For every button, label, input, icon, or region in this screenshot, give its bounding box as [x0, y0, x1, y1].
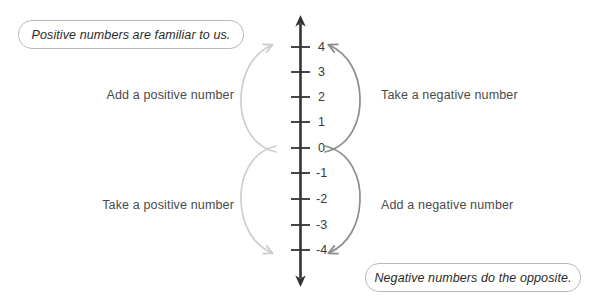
- arrow-add-positive: [241, 45, 276, 152]
- callout-positive-numbers: Positive numbers are familiar to us.: [18, 20, 244, 49]
- tick-label-neg-3: -3: [316, 218, 327, 232]
- arrow-take-positive: [241, 146, 276, 253]
- diagram-canvas: 4 3 2 1 0 -1 -2 -3 -4 Add a positive num…: [0, 0, 599, 307]
- tick-label-0: 0: [318, 141, 325, 155]
- callout-negative-numbers: Negative numbers do the opposite.: [365, 263, 581, 292]
- label-add-positive-number: Add a positive number: [86, 88, 234, 102]
- label-take-negative-number: Take a negative number: [381, 88, 518, 102]
- tick-label-neg-1: -1: [316, 166, 327, 180]
- tick-label-4: 4: [318, 40, 325, 54]
- tick-label-1: 1: [318, 115, 325, 129]
- axis-ticks: [291, 47, 310, 250]
- label-take-positive-number: Take a positive number: [86, 198, 234, 212]
- tick-label-neg-4: -4: [316, 243, 327, 257]
- axis-line: [295, 15, 305, 287]
- label-add-negative-number: Add a negative number: [381, 198, 513, 212]
- tick-label-3: 3: [318, 65, 325, 79]
- tick-label-2: 2: [318, 90, 325, 104]
- arrow-add-negative: [325, 146, 360, 253]
- arrow-take-negative: [325, 45, 360, 152]
- tick-label-neg-2: -2: [316, 192, 327, 206]
